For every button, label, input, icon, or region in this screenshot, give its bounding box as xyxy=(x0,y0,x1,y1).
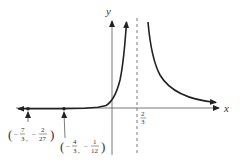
y-axis-label: y xyxy=(105,5,111,17)
svg-text:1: 1 xyxy=(93,138,97,146)
svg-text:): ) xyxy=(50,127,54,142)
svg-text:12: 12 xyxy=(91,147,99,155)
svg-text:27: 27 xyxy=(39,135,47,143)
point-label-1: ( − 7 3 , − 2 27 ) xyxy=(8,126,54,143)
svg-text:2: 2 xyxy=(41,126,45,134)
svg-text:3: 3 xyxy=(21,135,25,143)
svg-text:3: 3 xyxy=(73,147,77,155)
point-minus-4-3 xyxy=(62,107,66,111)
svg-text:,: , xyxy=(26,135,28,143)
pointer-arrow-2 xyxy=(64,112,65,138)
svg-text:): ) xyxy=(101,139,105,154)
point-minus-7-3 xyxy=(26,107,30,111)
svg-text:,: , xyxy=(78,147,80,155)
svg-text:3: 3 xyxy=(141,118,145,126)
svg-text:−: − xyxy=(14,131,18,139)
curve-left-branch xyxy=(18,22,127,109)
svg-text:7: 7 xyxy=(21,126,25,134)
svg-text:4: 4 xyxy=(73,138,77,146)
point-label-2: ( − 4 3 , − 1 12 ) xyxy=(60,138,105,155)
svg-text:(: ( xyxy=(8,127,12,142)
x-axis-label: x xyxy=(223,102,229,114)
svg-text:−: − xyxy=(84,143,88,151)
svg-text:−: − xyxy=(66,143,70,151)
curve-right-branch xyxy=(148,22,216,103)
svg-text:(: ( xyxy=(60,139,64,154)
curve-left-arrowhead xyxy=(17,106,24,112)
svg-text:−: − xyxy=(32,131,36,139)
asymptote-label: 2 3 xyxy=(141,110,147,126)
svg-text:2: 2 xyxy=(141,110,145,118)
